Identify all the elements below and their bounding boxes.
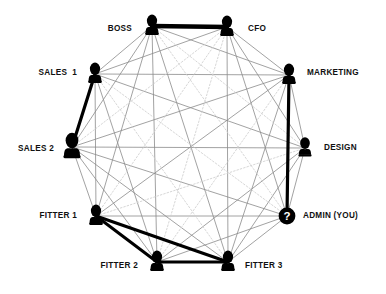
faint-edge [152,26,305,148]
faint-edge [152,26,287,216]
node-sales1[interactable] [88,63,102,83]
node-label-admin: ADMIN (YOU) [303,212,358,220]
node-label-boss: BOSS [108,25,132,33]
thin-edge [72,75,289,147]
node-marketing[interactable] [282,64,296,84]
thin-edge [95,27,227,74]
faint-edge [96,148,305,216]
thin-edge [72,147,305,148]
node-label-fitter3: FITTER 3 [245,262,282,270]
node-label-marketing: MARKETING [307,69,359,77]
thin-edge [96,26,152,216]
thin-edge [157,216,287,262]
node-sales2[interactable] [63,133,80,158]
thin-edge [228,216,287,262]
thin-edge [227,27,228,262]
node-label-fitter2: FITTER 2 [101,262,138,270]
strong-edge [96,216,157,262]
thin-edge [152,26,289,75]
thin-edge-group [72,26,305,262]
strong-edge [287,75,289,216]
node-label-sales2: SALES 2 [18,145,54,153]
question-mark-glyph: ? [283,210,290,222]
node-admin[interactable]: ? [279,208,296,225]
person-silhouette-icon [298,137,311,156]
thin-edge [227,27,305,148]
person-silhouette-icon [63,133,80,158]
person-silhouette-icon [88,63,102,83]
thin-edge [287,148,305,216]
thin-edge [95,74,289,75]
thin-edge [72,147,287,216]
thin-edge [95,74,96,216]
faint-edge-group [72,26,305,262]
node-label-sales1: SALES 1 [39,69,77,77]
node-label-fitter1: FITTER 1 [40,212,77,220]
network-diagram: ? BOSSCFOMARKETINGDESIGNADMIN (YOU)FITTE… [0,0,386,294]
thin-edge [228,148,305,262]
thin-edge [95,26,152,74]
faint-edge [95,74,287,216]
node-label-cfo: CFO [248,25,266,33]
thin-edge [227,27,289,75]
thin-edge [95,74,305,148]
strong-edge [152,26,227,27]
node-design[interactable] [298,137,311,156]
thin-edge [96,75,289,216]
thin-edge [72,147,157,262]
person-silhouette-icon [282,64,296,84]
thin-edge [152,26,157,262]
node-label-design: DESIGN [324,144,357,152]
